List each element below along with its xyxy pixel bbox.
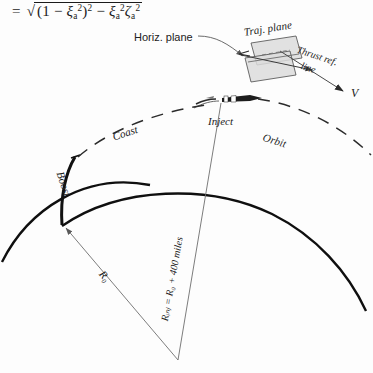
- rocket-window: [224, 96, 228, 102]
- horiz-plane-leader-line: [198, 36, 243, 56]
- inject-label: Inject: [208, 115, 233, 127]
- radius-r0-line: [66, 228, 178, 360]
- figure-canvas: = √(1 − ξa2)2 − ξa2ζa2: [0, 0, 373, 373]
- thrust-ref-left-arrowhead: [239, 51, 250, 56]
- earth-surface-arc-left: [2, 182, 150, 262]
- earth-surface-arc: [62, 193, 366, 311]
- radius-rinj-line: [178, 103, 221, 360]
- coast-arc: [78, 104, 212, 157]
- rocket-staging-debris: [206, 96, 214, 99]
- horiz-plane-label: Horiz. plane: [134, 31, 193, 43]
- rocket-stage-marking: [231, 96, 236, 103]
- velocity-label: V: [351, 86, 358, 101]
